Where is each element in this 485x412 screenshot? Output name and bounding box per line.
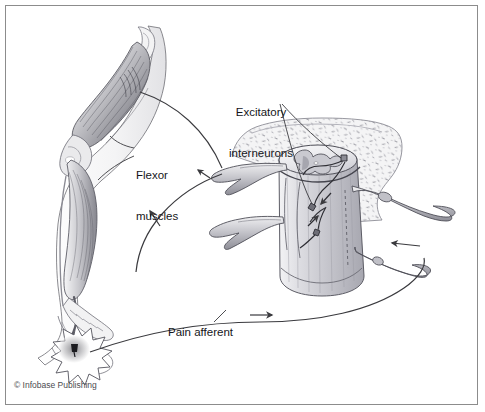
figure-root: Excitatory interneurons Flexor muscles P… — [0, 0, 485, 412]
ventral-root-lower-left — [210, 216, 284, 249]
label-excitatory-interneurons-line2: interneurons — [215, 147, 307, 161]
label-flexor-muscles-line2: muscles — [136, 210, 200, 224]
dorsal-root-entry-arrow — [392, 243, 420, 246]
tack-icon — [71, 344, 78, 352]
label-flexor-muscles: Flexor muscles — [136, 142, 200, 251]
central-canal — [314, 162, 318, 165]
label-flexor-muscles-line1: Flexor — [136, 169, 200, 183]
copyright-notice: © Infobase Publishing — [14, 380, 97, 390]
leader-pain-afferent — [214, 310, 226, 322]
pain-afferent-pathway — [90, 258, 424, 352]
label-excitatory-interneurons-line1: Excitatory — [215, 106, 307, 120]
label-pain-afferent: Pain afferent — [168, 326, 233, 340]
withdrawal-reflex-illustration — [0, 0, 485, 412]
interneuron-soma-1 — [341, 155, 347, 161]
ventral-root-lower-right — [355, 247, 431, 277]
label-excitatory-interneurons: Excitatory interneurons — [215, 79, 307, 188]
